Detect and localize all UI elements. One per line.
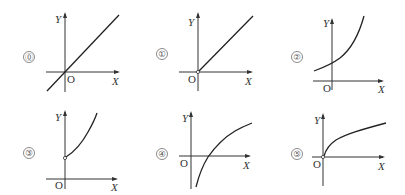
graph-3-plot bbox=[0, 97, 135, 194]
x-axis-label: X bbox=[112, 76, 119, 87]
curve bbox=[66, 113, 97, 157]
y-axis-arrow bbox=[63, 12, 67, 18]
graph-4-plot bbox=[135, 97, 270, 194]
graph-panel-3: ③ Y X O bbox=[0, 97, 135, 194]
graph-5-plot bbox=[270, 97, 405, 194]
x-axis-label: X bbox=[111, 182, 118, 193]
x-axis-arrow bbox=[245, 154, 251, 158]
y-axis-arrow bbox=[189, 111, 193, 117]
x-axis-label: X bbox=[245, 76, 252, 87]
curve bbox=[314, 16, 364, 71]
x-axis-arrow bbox=[379, 155, 385, 159]
open-point bbox=[321, 155, 324, 158]
curve bbox=[324, 123, 386, 156]
open-point bbox=[63, 156, 66, 159]
origin-label: O bbox=[323, 83, 331, 94]
x-axis-arrow bbox=[247, 70, 253, 74]
x-axis-label: X bbox=[378, 84, 385, 95]
y-axis-label: Y bbox=[182, 113, 188, 124]
origin-label: O bbox=[188, 74, 196, 85]
x-axis-label: X bbox=[243, 160, 250, 171]
curve bbox=[196, 123, 252, 187]
y-axis-arrow bbox=[321, 113, 325, 119]
curve bbox=[47, 15, 119, 91]
origin-label: O bbox=[313, 159, 321, 170]
x-axis-arrow bbox=[114, 70, 120, 74]
x-axis-label: X bbox=[378, 161, 385, 172]
graph-panel-5: ⑤ Y X O bbox=[270, 97, 405, 194]
y-axis-label: Y bbox=[323, 18, 329, 29]
open-point bbox=[196, 70, 199, 73]
y-axis-label: Y bbox=[314, 115, 320, 126]
graph-panel-4: ④ Y X O bbox=[135, 97, 270, 194]
y-axis-arrow bbox=[330, 18, 334, 24]
graph-panel-1: ① Y X O bbox=[135, 0, 270, 97]
y-axis-label: Y bbox=[188, 17, 194, 28]
curve bbox=[199, 16, 253, 71]
y-axis-label: Y bbox=[55, 112, 61, 123]
origin-label: O bbox=[180, 158, 188, 169]
graph-panel-0: ⓪ Y X O bbox=[0, 0, 135, 97]
origin-label: O bbox=[55, 180, 63, 191]
graph-panel-2: ② Y X O bbox=[270, 0, 405, 97]
y-axis-arrow bbox=[63, 110, 67, 116]
y-axis-label: Y bbox=[55, 14, 61, 25]
origin-label: O bbox=[67, 74, 75, 85]
y-axis-arrow bbox=[196, 12, 200, 18]
